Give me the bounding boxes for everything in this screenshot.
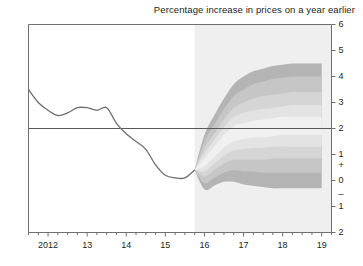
x-tick-label: 17 bbox=[227, 240, 261, 250]
y-axis-minus-sign: – bbox=[339, 189, 353, 199]
y-tick-label: 0 bbox=[339, 175, 353, 185]
x-tick-label: 14 bbox=[109, 240, 143, 250]
y-tick-label: 6 bbox=[339, 19, 353, 29]
x-tick-label: 15 bbox=[148, 240, 182, 250]
x-tick-label: 19 bbox=[305, 240, 339, 250]
x-tick-label: 2012 bbox=[31, 240, 65, 250]
y-tick-label: 4 bbox=[339, 71, 353, 81]
y-axis-plus-sign: + bbox=[339, 160, 353, 170]
y-tick-label: 5 bbox=[339, 45, 353, 55]
x-tick-label: 16 bbox=[187, 240, 221, 250]
y-tick-label: 1 bbox=[339, 149, 353, 159]
y-tick-label: 3 bbox=[339, 97, 353, 107]
y-tick-label: 2 bbox=[339, 123, 353, 133]
x-tick-label: 18 bbox=[266, 240, 300, 250]
x-tick-label: 13 bbox=[70, 240, 104, 250]
inflation-fan-chart: Percentage increase in prices on a year … bbox=[0, 0, 363, 266]
y-tick-label: 1 bbox=[339, 201, 353, 211]
y-tick-label: 2 bbox=[339, 227, 353, 237]
chart-plot-area bbox=[0, 0, 363, 266]
